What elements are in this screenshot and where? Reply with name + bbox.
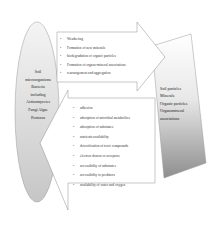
process-item: detoxification of toxic compounds	[73, 142, 157, 152]
process-item: accessibility to predators	[73, 171, 157, 181]
process-item: accessibility of substrates	[73, 162, 157, 172]
top-arrow-process-list: Weathering Formation of new minerals bio…	[60, 35, 140, 78]
microorganisms-line: Soil	[14, 68, 62, 76]
soil-particles-line: Organomineral	[160, 107, 206, 114]
process-item: Formation of organo-mineral associations	[60, 61, 140, 70]
process-item: adsorption of substrates	[73, 123, 157, 133]
process-item: biodegradation of organic particles	[60, 52, 140, 61]
soil-particles-line: Organic particles	[160, 100, 206, 107]
process-item: adsorption of microbial metabolites	[73, 114, 157, 124]
soil-particles-line: Soil particles	[160, 85, 206, 92]
process-item: rearrangement and aggregation	[60, 69, 140, 78]
process-item: nutrients availability	[73, 133, 157, 143]
microorganisms-line: Actinomycetes	[14, 98, 62, 106]
bottom-arrow-process-list: adhesion adsorption of microbial metabol…	[73, 104, 157, 190]
microorganisms-line: Fungi Algae	[14, 106, 62, 114]
microorganisms-node-label: Soil microorganisms Bacteria including A…	[14, 68, 62, 121]
microorganisms-line: Protozoa	[14, 114, 62, 122]
microorganisms-line: including	[14, 91, 62, 99]
process-item: electron donors or acceptors	[73, 152, 157, 162]
process-item: Weathering	[60, 35, 140, 44]
microorganisms-line: Bacteria	[14, 83, 62, 91]
soil-particles-line: Minerals	[160, 92, 206, 99]
process-item: adhesion	[73, 104, 157, 114]
process-item: availability of water and oxygen	[73, 181, 157, 191]
process-item: Formation of new minerals	[60, 44, 140, 53]
microorganisms-line: microorganisms	[14, 76, 62, 84]
soil-particles-line: associations	[160, 115, 206, 122]
soil-particles-node-label: Soil particles Minerals Organic particle…	[160, 85, 206, 122]
